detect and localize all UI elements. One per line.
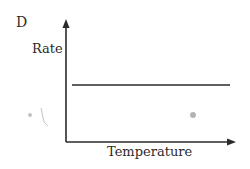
x-axis-arrow-icon [227, 139, 236, 146]
scan-smudge [28, 113, 32, 117]
plot-area [0, 0, 250, 169]
y-axis-arrow-icon [63, 19, 70, 28]
scan-smudge [41, 108, 48, 126]
scan-smudge [190, 112, 196, 118]
